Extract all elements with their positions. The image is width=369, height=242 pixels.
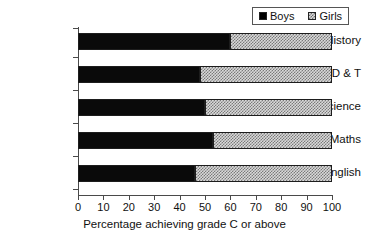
bar-segment-girls [213,132,332,149]
x-axis-tick-label: 20 [116,201,142,213]
bar-row [78,66,332,83]
x-axis-tick-label: 80 [268,201,294,213]
x-axis-tick [180,195,181,200]
bar-segment-boys [78,99,205,116]
bar-segment-boys [78,66,200,83]
x-axis-tick [281,195,282,200]
bar-row [78,33,332,50]
x-axis-tick-label: 50 [192,201,218,213]
bar-segment-boys [78,132,213,149]
x-axis-title: Percentage achieving grade C or above [0,218,369,231]
bar-segment-boys [78,33,230,50]
x-axis-tick-label: 90 [294,201,320,213]
legend-label-girls: Girls [319,11,342,22]
x-axis-tick-label: 70 [243,201,269,213]
bar-segment-girls [205,99,332,116]
bar-row [78,99,332,116]
plot-area [78,28,332,195]
x-axis-tick [103,195,104,200]
hatched-square-icon [308,12,316,20]
bar-segment-girls [230,33,332,50]
legend-entry-girls: Girls [308,11,342,22]
x-axis-tick-label: 60 [217,201,243,213]
bar-chart: Boys Girls History D & T Science Maths E… [0,0,369,242]
solid-black-square-icon [259,12,267,20]
x-axis-tick [129,195,130,200]
x-axis-tick [154,195,155,200]
x-axis-tick-label: 100 [319,201,345,213]
x-axis-tick [230,195,231,200]
x-axis-tick-label: 10 [90,201,116,213]
bar-segment-girls [200,66,332,83]
x-axis-tick [307,195,308,200]
bar-segment-boys [78,165,195,182]
legend-entry-boys: Boys [259,11,294,22]
legend-label-boys: Boys [270,11,294,22]
x-axis-tick [332,195,333,200]
bar-row [78,132,332,149]
bar-segment-girls [195,165,332,182]
x-axis-tick-label: 0 [65,201,91,213]
x-axis-tick [205,195,206,200]
x-axis-tick [78,195,79,200]
x-axis-tick [256,195,257,200]
chart-legend: Boys Girls [252,7,349,25]
x-axis-tick-label: 30 [141,201,167,213]
x-axis-tick-label: 40 [167,201,193,213]
bar-row [78,165,332,182]
